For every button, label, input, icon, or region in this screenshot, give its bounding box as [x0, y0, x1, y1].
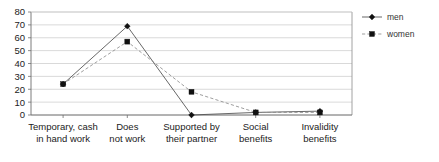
data-point-men — [189, 112, 195, 118]
x-axis-tick-label: benefits — [239, 133, 273, 144]
data-point-women — [317, 110, 322, 115]
y-axis-tick-label: 10 — [14, 97, 25, 108]
legend-label-men: men — [387, 12, 404, 22]
x-axis-tick-label: Invalidity — [301, 121, 338, 132]
y-axis-tick-label: 0 — [20, 109, 25, 120]
x-axis-tick-label: Does — [116, 121, 138, 132]
y-axis-tick-label: 30 — [14, 71, 25, 82]
y-axis-tick-label: 20 — [14, 84, 25, 95]
x-axis-tick-label: Social — [243, 121, 269, 132]
data-point-women — [189, 89, 194, 94]
x-axis-tick-label: Supported by — [163, 121, 220, 132]
line-chart: 01020304050607080Temporary, cashin hand … — [0, 0, 439, 162]
x-axis-tick-label: benefits — [303, 133, 337, 144]
data-point-women — [125, 39, 130, 44]
y-axis-tick-label: 80 — [14, 6, 25, 17]
y-axis-tick-label: 70 — [14, 19, 25, 30]
x-axis-tick-label: their partner — [166, 133, 217, 144]
x-axis-tick-label: not work — [109, 133, 145, 144]
data-point-women — [61, 82, 66, 87]
y-axis-tick-label: 50 — [14, 45, 25, 56]
chart-canvas: 01020304050607080Temporary, cashin hand … — [0, 0, 439, 162]
y-axis-tick-label: 60 — [14, 32, 25, 43]
data-point-women — [253, 110, 258, 115]
series-line-men — [63, 26, 320, 115]
x-axis-tick-label: Temporary, cash — [28, 121, 98, 132]
x-axis-tick-label: in hand work — [36, 133, 90, 144]
legend-marker-square-icon — [370, 32, 375, 37]
legend-label-women: women — [386, 29, 415, 39]
y-axis-tick-label: 40 — [14, 58, 25, 69]
